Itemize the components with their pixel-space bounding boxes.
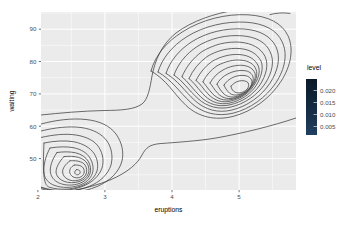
x-tick-label-3: 3 [103, 193, 107, 200]
panel-background [41, 12, 296, 190]
x-tick-label-2: 2 [36, 193, 40, 200]
y-tick-label-70: 70 [30, 90, 37, 97]
y-tick-label-50: 50 [30, 155, 37, 162]
legend-label-0005: 0.005 [320, 123, 336, 130]
x-tick-label-4: 4 [170, 193, 174, 200]
legend-label-0015: 0.015 [320, 99, 336, 106]
x-tick-label-5: 5 [237, 193, 241, 200]
legend-title: level [307, 64, 321, 71]
legend-label-0020: 0.020 [320, 87, 336, 94]
x-axis-title: eruptions [155, 206, 184, 214]
contour-plot-figure: 2 3 4 5 50 60 70 80 90 eruptions waiting… [0, 0, 353, 227]
y-axis-title: waiting [8, 90, 16, 112]
plot-canvas: 2 3 4 5 50 60 70 80 90 eruptions waiting… [0, 0, 353, 227]
y-tick-label-80: 80 [30, 58, 37, 65]
legend-label-0010: 0.010 [320, 111, 336, 118]
y-tick-label-90: 90 [30, 25, 37, 32]
y-tick-label-60: 60 [30, 123, 37, 130]
